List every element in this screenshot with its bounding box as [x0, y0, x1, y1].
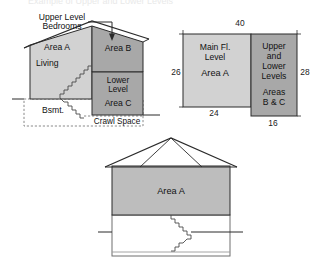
floor-plan: 40 26 28 24 16 Main Fl. Level Area A Upp… [171, 18, 310, 128]
house-elevation: Area A [98, 138, 243, 256]
elevation-truss-webs [140, 138, 202, 167]
plan-side-line-2: and [267, 51, 282, 61]
label-living: Living [36, 58, 59, 68]
dim-left: 26 [171, 67, 181, 77]
elevation-area-label: Area A [157, 186, 185, 196]
roof-eave-right [143, 39, 149, 42]
label-area-c: Area C [105, 98, 132, 108]
diagram-canvas: Example of Upper and Lower Levels [0, 0, 320, 276]
plan-main-line-3: Area A [201, 68, 229, 78]
plan-side-line-6: B & C [263, 97, 285, 107]
house-cross-section: Area A Living Area B Lower Level Area C … [12, 12, 160, 126]
label-area-a: Area A [44, 42, 70, 52]
plan-side-line-3: Lower [262, 61, 286, 71]
label-lower-level-1: Lower [107, 76, 130, 85]
label-crawl-space: Crawl Space [94, 117, 141, 126]
label-area-b: Area B [105, 43, 132, 53]
diagram-svg: Area A Living Area B Lower Level Area C … [0, 0, 320, 276]
dim-top: 40 [235, 18, 245, 28]
elevation-basement-box [112, 215, 230, 256]
label-lower-level-2: Level [108, 85, 128, 94]
plan-side-line-5: Areas [263, 87, 285, 97]
callout-line-2: Bedrooms [42, 21, 81, 31]
dim-right: 28 [300, 67, 310, 77]
plan-main-line-2: Level [205, 52, 226, 62]
plan-side-line-4: Levels [262, 71, 287, 81]
plan-main-line-1: Main Fl. [200, 42, 231, 52]
dim-ticks-top [183, 30, 297, 34]
dim-bottom-right: 16 [268, 118, 278, 128]
dim-bottom-left: 24 [209, 108, 219, 118]
plan-side-line-1: Upper [262, 41, 286, 51]
elevation-roof-line [105, 138, 237, 167]
label-basement: Bsmt. [42, 105, 64, 115]
